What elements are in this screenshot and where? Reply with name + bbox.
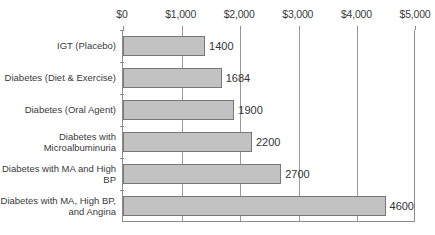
x-tick-label: $5,000 xyxy=(400,8,431,20)
bar-value-label: 2200 xyxy=(256,137,280,148)
bar-value-label: 2700 xyxy=(285,169,309,180)
bar xyxy=(123,164,281,184)
x-axis-tick-labels: $0$1,000$2,000$3,000$4,000$5,000 xyxy=(0,8,435,22)
bar xyxy=(123,100,234,120)
category-label: Diabetes (Diet & Exercise) xyxy=(0,62,116,94)
category-label: Diabetes with MA, High BP, and Angina xyxy=(0,190,116,222)
bar-value-label: 1684 xyxy=(226,73,250,84)
bar-row: 2700 xyxy=(123,164,414,184)
category-label: Diabetes (Oral Agent) xyxy=(0,94,116,126)
bar-value-label: 1900 xyxy=(238,105,262,116)
x-tick-label: $1,000 xyxy=(165,8,196,20)
x-tick-label: $3,000 xyxy=(282,8,313,20)
bar xyxy=(123,68,222,88)
x-tick-label: $4,000 xyxy=(341,8,372,20)
bar-row: 1684 xyxy=(123,68,414,88)
x-tick-label: $2,000 xyxy=(224,8,255,20)
bar-chart: $0$1,000$2,000$3,000$4,000$5,000 IGT (Pl… xyxy=(0,0,435,235)
bar-row: 2200 xyxy=(123,132,414,152)
plot-area: 140016841900220027004600 xyxy=(122,30,415,222)
x-tick-mark xyxy=(415,26,416,30)
bar-row: 1900 xyxy=(123,100,414,120)
bar-row: 4600 xyxy=(123,196,414,216)
bar-rows: 140016841900220027004600 xyxy=(123,30,414,221)
bar-row: 1400 xyxy=(123,36,414,56)
category-label: Diabetes with MA and High BP xyxy=(0,158,116,190)
category-label: Diabetes with Microalbuminuria xyxy=(0,126,116,158)
bar-value-label: 4600 xyxy=(390,201,414,212)
bar xyxy=(123,196,386,216)
bar xyxy=(123,132,252,152)
category-label: IGT (Placebo) xyxy=(0,30,116,62)
category-axis-labels: IGT (Placebo)Diabetes (Diet & Exercise)D… xyxy=(0,30,120,222)
bar-value-label: 1400 xyxy=(209,41,233,52)
bar xyxy=(123,36,205,56)
x-tick-label: $0 xyxy=(116,8,127,20)
